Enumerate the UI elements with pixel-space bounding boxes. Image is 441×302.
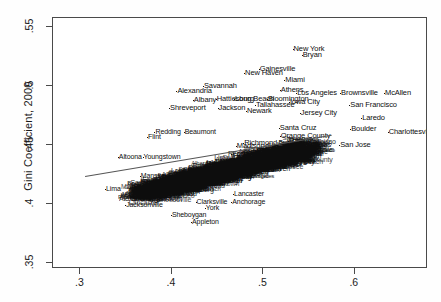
data-point-label: Jacksonville — [227, 162, 258, 168]
data-point-label: Savannah — [228, 165, 259, 172]
data-point-label: Hattiesburg — [217, 173, 252, 180]
data-point-label: Middlesex — [246, 160, 277, 167]
data-point-label: Appleton — [154, 181, 181, 188]
data-point-label: Laredo — [200, 172, 218, 178]
data-point-label: Jersey City — [246, 164, 275, 170]
data-point-label: Clarksville — [230, 157, 256, 163]
data-point-label: Orange County — [209, 169, 248, 175]
data-point-label: Anchorage — [194, 176, 227, 183]
data-point-label: Flint — [174, 179, 187, 186]
data-point-label: Jersey City — [232, 160, 261, 166]
data-point-label: Appleton — [202, 167, 225, 173]
data-point-label: Albany — [243, 163, 261, 169]
y-tick-label: .45 — [23, 129, 35, 159]
data-point-label: Madison — [138, 190, 164, 197]
data-point-label: Shreveport — [173, 180, 201, 186]
data-point-label: Albany — [221, 170, 242, 177]
data-point-label: Jackson — [191, 174, 216, 181]
data-point-label: Richmond — [167, 179, 198, 186]
data-point-label: New Haven — [224, 166, 254, 172]
data-point-label: Bloomington — [194, 174, 232, 181]
data-point-label: Jersey City — [224, 164, 253, 170]
data-point-label: Bloomington — [232, 163, 270, 170]
data-point-label: Santa Cruz — [194, 173, 228, 180]
data-point-label: Charlottesville — [170, 173, 212, 180]
data-point-label: Fort Collins — [195, 174, 224, 180]
data-point-label: Boulder — [135, 193, 155, 199]
data-point-label: Raleigh — [180, 174, 203, 181]
data-point-label: Redding — [147, 188, 172, 195]
data-point-label: Sheboygan — [182, 180, 217, 187]
data-point-label: Santa Cruz — [254, 163, 283, 169]
data-point-label: Bloomington — [233, 159, 265, 165]
data-point-label: Brownsville — [158, 178, 192, 185]
data-point-label: Laredo — [202, 167, 220, 173]
data-point-label: Altoona — [210, 166, 230, 172]
data-point-label: Appleton — [180, 183, 207, 190]
data-point-label: Fort Collins — [221, 166, 250, 172]
data-point-label: Sheboygan — [219, 163, 254, 170]
data-point-label: Sheboygan — [275, 157, 310, 164]
data-point-label: Bryan — [186, 173, 204, 180]
data-point-label: Kokomo — [123, 193, 144, 199]
data-point-label: Beaumont — [199, 171, 226, 177]
data-point-label: Long Beach — [133, 189, 169, 196]
data-point-label: Brownsville — [203, 174, 232, 180]
data-point-label: Gainesville — [258, 158, 286, 164]
data-point-label: Jackson — [168, 178, 193, 185]
data-point-label: San Francisco — [221, 159, 258, 165]
data-point-label: Orange County — [210, 165, 256, 172]
data-point-label: New York — [248, 163, 273, 169]
data-point-label: Appleton — [224, 162, 247, 168]
data-point-label: Middlesex — [202, 167, 233, 174]
data-point-label: Sheboygan — [230, 160, 259, 166]
data-point-label: Los Angeles — [136, 185, 173, 192]
data-point-label: Altoona — [141, 185, 161, 191]
data-point-label: Youngstown — [183, 181, 220, 188]
data-point-label: Laredo — [211, 165, 229, 171]
data-point-label: Kokomo — [169, 176, 194, 183]
data-point-label: San Jose — [210, 170, 238, 177]
data-point-label: Gainesville — [185, 176, 218, 183]
y-tick-label: .5 — [23, 70, 35, 100]
data-point-label: Athens — [200, 164, 218, 170]
data-point-label: Lancaster — [183, 177, 208, 183]
data-point-label: Brownsville — [174, 174, 208, 181]
data-point-label: Los Angeles — [219, 167, 251, 173]
data-point-marker — [171, 215, 172, 216]
data-point-label: Gainesville — [132, 184, 160, 190]
data-point-label: Madison — [189, 180, 215, 187]
data-point-label: Fort Collins — [143, 181, 177, 188]
data-point-label: Salinas — [246, 160, 268, 167]
data-point-label: York — [214, 173, 227, 180]
data-point-label: Salinas — [136, 187, 155, 193]
data-point-label: Beaumont — [169, 177, 200, 184]
data-point-marker — [231, 154, 232, 155]
data-point-label: Bryan — [269, 158, 284, 164]
data-point-label: Sheboygan — [138, 188, 167, 194]
data-point-label: Bloomington — [197, 167, 229, 173]
data-point-label: Youngstown — [195, 169, 226, 175]
data-point-label: Savannah — [257, 158, 288, 165]
data-point-label: Jersey City — [269, 160, 298, 166]
data-point-label: Alexandria — [176, 169, 203, 175]
data-point-label: Jersey City — [211, 170, 245, 177]
data-point-label: Altoona — [128, 194, 148, 200]
data-point-label: Lima — [180, 178, 193, 184]
data-point-label: Bryan — [127, 180, 142, 186]
data-point-label: New York — [181, 176, 210, 183]
data-point-label: Alexandria — [222, 165, 249, 171]
data-point-label: Alexandria — [216, 161, 248, 168]
data-point-label: Tallahassee — [193, 173, 224, 179]
data-point-label: Fort Collins — [168, 170, 202, 177]
data-point-label: Altoona — [230, 169, 253, 176]
data-point-label: Flint — [208, 175, 221, 182]
data-point-label: Alexandria — [205, 173, 232, 179]
data-point-label: New Haven — [136, 187, 171, 194]
data-point-label: Boulder — [134, 182, 154, 188]
data-point-label: Kokomo — [186, 172, 207, 178]
data-point-label: Albany — [133, 185, 151, 191]
data-point-label: Kokomo — [259, 157, 280, 163]
data-point-label: Athens — [136, 191, 154, 197]
data-point-label: Raleigh — [231, 159, 254, 166]
